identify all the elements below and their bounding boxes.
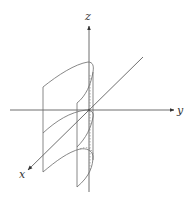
x-axis-label: x [19,168,26,181]
origin-point [88,109,91,112]
diagram-canvas: z y x [0,0,190,203]
y-axis-label: y [176,104,184,117]
middle-curve [43,110,93,147]
x-axis [28,57,143,170]
top-curve [43,62,93,103]
bottom-curve [43,149,93,187]
z-axis-label: z [84,10,91,23]
